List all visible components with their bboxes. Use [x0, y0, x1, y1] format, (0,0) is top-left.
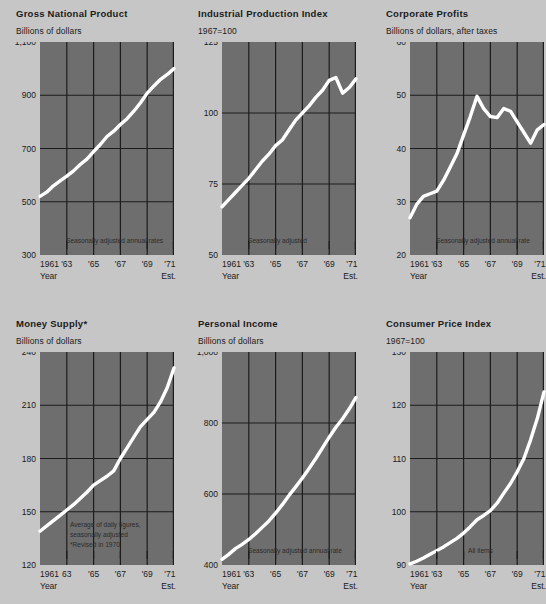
x-tick-label: '69	[142, 569, 153, 579]
x-tick-label: '65	[88, 569, 99, 579]
y-tick-label: 50	[209, 250, 219, 260]
y-tick-label: 1,000	[197, 352, 219, 357]
x-tick-label: 1961	[40, 569, 59, 579]
y-tick-label: 20	[397, 250, 407, 260]
y-tick-label: 100	[204, 108, 218, 118]
chart-units-money-supply: Billions of dollars	[16, 336, 184, 346]
chart-annotation: seasonally adjusted	[70, 531, 128, 539]
chart-panel-gross-national-product: Gross National ProductBillions of dollar…	[8, 8, 184, 290]
estimate-label: Est.	[161, 271, 176, 281]
x-tick-label: 1961	[410, 259, 429, 269]
y-tick-label: 120	[22, 560, 36, 570]
y-tick-label: 1,100	[15, 42, 37, 47]
x-tick-label: '71	[164, 259, 175, 269]
y-tick-label: 110	[392, 454, 406, 464]
x-tick-label: '69	[324, 259, 335, 269]
x-tick-label: 1961	[410, 569, 429, 579]
y-tick-label: 150	[22, 507, 36, 517]
estimate-label: Est.	[343, 581, 358, 591]
chart-panel-consumer-price-index: Consumer Price Index1967=100901001101201…	[378, 318, 546, 600]
x-tick-label: '69	[324, 569, 335, 579]
y-tick-label: 700	[22, 144, 36, 154]
estimate-label: Est.	[531, 581, 546, 591]
chart-annotation: Seasonally adjusted annual rate	[436, 237, 530, 245]
x-axis-label: Year	[40, 271, 57, 281]
chart-annotation: *Revised in 1970	[70, 541, 120, 548]
chart-plot-gross-national-product: 3005007009001,100Seasonally adjusted ann…	[8, 42, 184, 290]
plot-area-background	[222, 352, 356, 565]
chart-plot-money-supply: 120150180210240Average of daily figures,…	[8, 352, 184, 600]
x-tick-label: '67	[485, 569, 496, 579]
x-tick-label: 63	[62, 569, 72, 579]
x-tick-label: '65	[270, 569, 281, 579]
y-tick-label: 180	[22, 454, 36, 464]
x-tick-label: 1961	[222, 259, 241, 269]
y-tick-label: 75	[209, 179, 219, 189]
x-tick-label: '71	[534, 259, 545, 269]
y-tick-label: 40	[397, 144, 407, 154]
y-tick-label: 50	[397, 90, 407, 100]
x-axis-label: Year	[40, 581, 57, 591]
x-tick-label: 1961	[40, 259, 59, 269]
y-tick-label: 600	[204, 489, 218, 499]
chart-title-personal-income: Personal Income	[198, 318, 366, 329]
x-axis-label: Year	[222, 271, 239, 281]
x-axis-label: Year	[410, 271, 427, 281]
chart-plot-industrial-production-index: 5075100125Seasonally adjusted1961'63'65'…	[190, 42, 366, 290]
plot-area-background	[222, 42, 356, 255]
x-axis-label: Year	[222, 581, 239, 591]
y-tick-label: 120	[392, 400, 406, 410]
chart-units-corporate-profits: Billions of dollars, after taxes	[386, 26, 546, 36]
y-tick-label: 125	[204, 42, 218, 47]
chart-panel-industrial-production-index: Industrial Production Index1967=10050751…	[190, 8, 366, 290]
y-tick-label: 30	[397, 197, 407, 207]
estimate-label: Est.	[161, 581, 176, 591]
x-tick-label: '63	[243, 569, 254, 579]
chart-title-consumer-price-index: Consumer Price Index	[386, 318, 546, 329]
dashboard-chart-grid: Gross National ProductBillions of dollar…	[0, 0, 546, 604]
x-tick-label: '71	[346, 259, 357, 269]
estimate-label: Est.	[343, 271, 358, 281]
y-tick-label: 400	[204, 560, 218, 570]
y-tick-label: 500	[22, 197, 36, 207]
y-tick-label: 210	[22, 400, 36, 410]
y-tick-label: 100	[392, 507, 406, 517]
x-axis-label: Year	[410, 581, 427, 591]
x-tick-label: '71	[164, 569, 175, 579]
estimate-label: Est.	[531, 271, 546, 281]
x-tick-label: '67	[297, 569, 308, 579]
y-tick-label: 240	[22, 352, 36, 357]
chart-panel-money-supply: Money Supply*Billions of dollars12015018…	[8, 318, 184, 600]
chart-annotation: Average of daily figures,	[70, 521, 141, 529]
x-tick-label: '65	[88, 259, 99, 269]
x-tick-label: 1961	[222, 569, 241, 579]
chart-title-corporate-profits: Corporate Profits	[386, 8, 546, 19]
y-tick-label: 60	[397, 42, 407, 47]
x-tick-label: '67	[115, 569, 126, 579]
chart-plot-personal-income: 4006008001,000Seasonally adjusted annual…	[190, 352, 366, 600]
y-tick-label: 800	[204, 418, 218, 428]
x-tick-label: '71	[534, 569, 545, 579]
x-tick-label: '69	[142, 259, 153, 269]
y-tick-label: 130	[392, 352, 406, 357]
chart-plot-corporate-profits: 2030405060Seasonally adjusted annual rat…	[378, 42, 546, 290]
y-tick-label: 300	[22, 250, 36, 260]
x-tick-label: '65	[458, 569, 469, 579]
chart-units-consumer-price-index: 1967=100	[386, 336, 546, 346]
y-tick-label: 900	[22, 90, 36, 100]
x-tick-label: '69	[512, 259, 523, 269]
y-tick-label: 90	[397, 560, 407, 570]
chart-annotation: Seasonally adjusted annual rate	[248, 547, 342, 555]
chart-title-industrial-production-index: Industrial Production Index	[198, 8, 366, 19]
chart-panel-personal-income: Personal IncomeBillions of dollars400600…	[190, 318, 366, 600]
x-tick-label: '65	[270, 259, 281, 269]
x-tick-label: '67	[115, 259, 126, 269]
chart-units-industrial-production-index: 1967=100	[198, 26, 366, 36]
chart-title-money-supply: Money Supply*	[16, 318, 184, 329]
x-tick-label: '71	[346, 569, 357, 579]
chart-annotation: Seasonally adjusted annual rates	[66, 237, 164, 245]
chart-panel-corporate-profits: Corporate ProfitsBillions of dollars, af…	[378, 8, 546, 290]
x-tick-label: '69	[512, 569, 523, 579]
chart-annotation: All items	[468, 547, 494, 554]
x-tick-label: '63	[243, 259, 254, 269]
